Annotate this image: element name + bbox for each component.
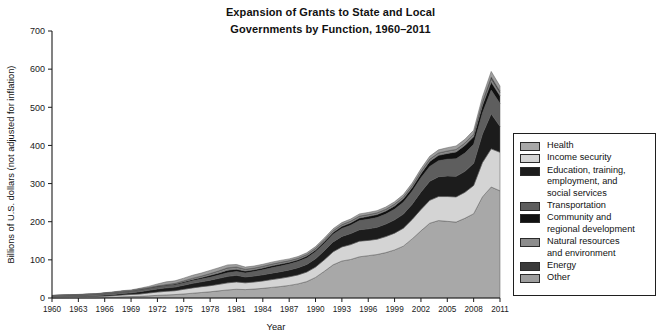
- chart-title-line-1: Expansion of Grants to State and Local: [0, 4, 661, 21]
- x-axis-label: Year: [267, 322, 286, 332]
- y-tick-label: 0: [40, 293, 45, 303]
- legend-swatch: [520, 214, 540, 223]
- legend-item-label: Education, training, employment, and soc…: [547, 165, 626, 199]
- legend-item-label: Other: [547, 272, 570, 283]
- legend-swatch: [520, 142, 540, 151]
- legend-item[interactable]: Health: [520, 140, 651, 151]
- x-tick-label: 2002: [412, 305, 431, 314]
- x-tick-label: 1990: [306, 305, 325, 314]
- y-tick-label: 600: [30, 64, 45, 74]
- legend-swatch: [520, 167, 540, 176]
- legend-swatch: [520, 274, 540, 283]
- x-tick-label: 2008: [465, 305, 484, 314]
- legend-swatch: [520, 262, 540, 271]
- legend-item-label: Natural resources and environment: [547, 236, 620, 259]
- legend-item[interactable]: Other: [520, 272, 651, 283]
- x-tick-label: 1975: [175, 305, 194, 314]
- legend-item[interactable]: Community and regional development: [520, 212, 651, 235]
- x-tick-label: 2011: [491, 305, 509, 314]
- chart-legend: HealthIncome securityEducation, training…: [513, 133, 656, 296]
- x-tick-label: 1972: [148, 305, 167, 314]
- x-tick-label: 1999: [385, 305, 404, 314]
- x-tick-label: 1960: [43, 305, 62, 314]
- chart-figure: Expansion of Grants to State and Local G…: [0, 0, 661, 334]
- legend-item-label: Health: [547, 140, 574, 151]
- x-tick-label: 1984: [254, 305, 273, 314]
- x-tick-label: 1963: [69, 305, 88, 314]
- legend-item[interactable]: Energy: [520, 260, 651, 271]
- x-tick-label: 1996: [359, 305, 378, 314]
- legend-swatch: [520, 202, 540, 211]
- legend-item-label: Transportation: [547, 200, 606, 211]
- y-tick-label: 500: [30, 103, 45, 113]
- x-tick-label: 1993: [333, 305, 352, 314]
- area-series-group: [52, 71, 500, 298]
- legend-item[interactable]: Natural resources and environment: [520, 236, 651, 259]
- y-tick-label: 200: [30, 217, 45, 227]
- legend-item-label: Energy: [547, 260, 576, 271]
- x-tick-label: 1981: [227, 305, 246, 314]
- x-tick-label: 1987: [280, 305, 299, 314]
- x-tick-label: 1966: [96, 305, 115, 314]
- legend-swatch: [520, 154, 540, 163]
- x-tick-label: 2005: [438, 305, 457, 314]
- legend-item[interactable]: Transportation: [520, 200, 651, 211]
- legend-item[interactable]: Education, training, employment, and soc…: [520, 165, 651, 199]
- y-axis-label: Billions of U.S. dollars (not adjusted f…: [6, 66, 16, 264]
- legend-item-label: Community and regional development: [547, 212, 635, 235]
- x-tick-label: 1969: [122, 305, 141, 314]
- y-tick-label: 300: [30, 179, 45, 189]
- y-tick-label: 400: [30, 141, 45, 151]
- x-axis: 1960196319661969197219751978198119841987…: [43, 298, 509, 314]
- legend-swatch: [520, 238, 540, 247]
- chart-title: Expansion of Grants to State and Local G…: [0, 4, 661, 38]
- legend-item[interactable]: Income security: [520, 152, 651, 163]
- y-axis: 0100200300400500600700: [30, 26, 52, 303]
- x-tick-label: 1978: [201, 305, 220, 314]
- legend-item-label: Income security: [547, 152, 611, 163]
- chart-title-line-2: Governments by Function, 1960–2011: [0, 21, 661, 38]
- y-tick-label: 100: [30, 255, 45, 265]
